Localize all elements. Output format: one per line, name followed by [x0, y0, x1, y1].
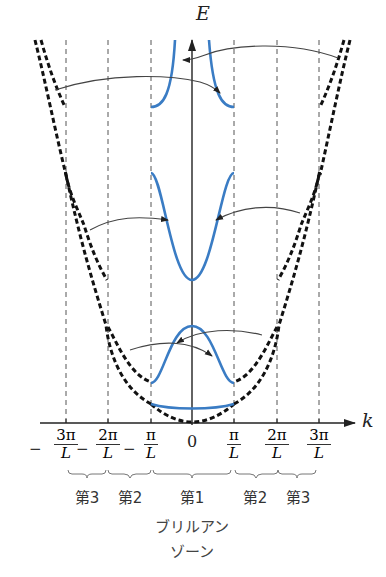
brillouin-zone-title-line2: ゾーン — [132, 540, 252, 561]
zone-label-2-left: 第2 — [113, 486, 147, 507]
brillouin-zone-title-line1: ブリルアン — [132, 515, 252, 536]
brace-zone3-left — [68, 470, 106, 478]
zone-label-3-left: 第3 — [70, 486, 104, 507]
brace-zone2-left — [108, 470, 151, 478]
brace-zone3-right — [278, 470, 316, 478]
zone-label-1: 第1 — [175, 486, 209, 507]
brace-zone2-right — [235, 470, 278, 478]
zone-label-3-right: 第3 — [281, 486, 315, 507]
brace-zone1 — [153, 470, 231, 478]
zone-label-2-right: 第2 — [238, 486, 272, 507]
